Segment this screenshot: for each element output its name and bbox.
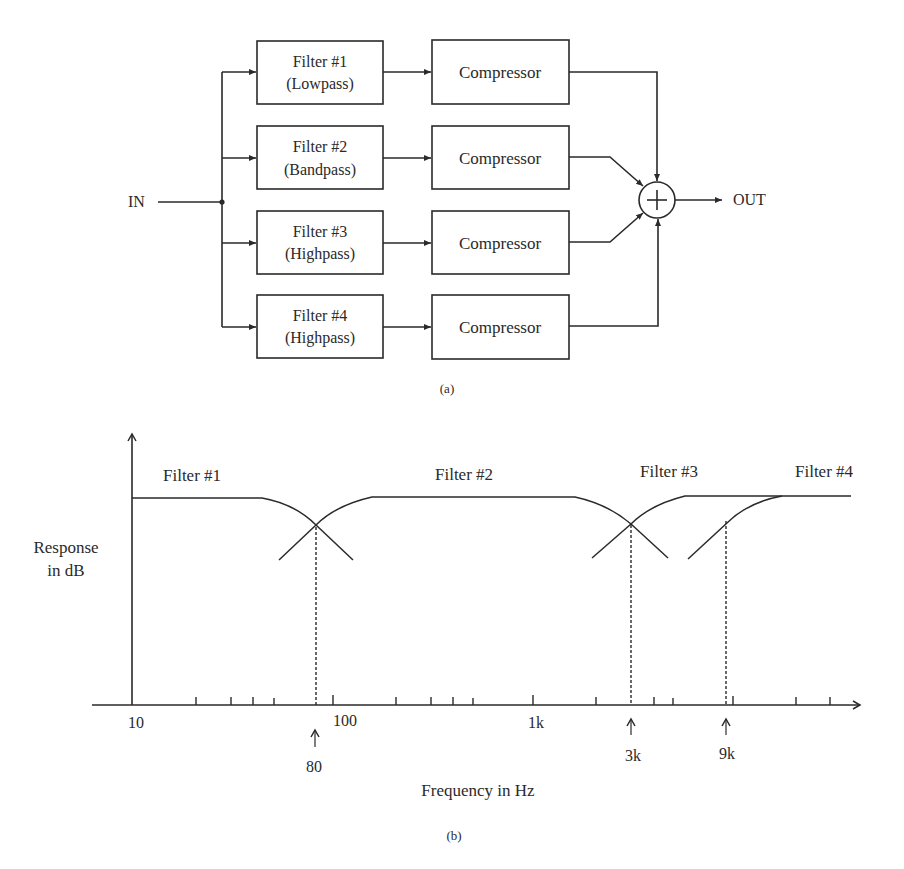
svg-text:80: 80 [306,758,322,775]
x-tick-100: 100 [333,712,357,729]
frequency-response-chart: 10 100 1k 80 3k 9k Filter #1 Filter #2 F… [33,434,860,843]
filter-1-curve-label: Filter #1 [163,466,221,485]
svg-text:3k: 3k [625,747,641,764]
x-axis-ticks [196,695,830,705]
filter-4-name: Filter #4 [293,307,348,324]
filter-4-block [257,295,383,358]
compressor-3-to-summer [569,213,643,242]
y-axis-label-line2: in dB [47,561,84,580]
caption-a: (a) [440,381,454,396]
filter-2-type: (Bandpass) [284,161,356,179]
crossover-marker-80: 80 [306,527,322,775]
filter-1-type: (Lowpass) [286,75,354,93]
filter-3-type: (Highpass) [285,245,355,263]
filter-3-name: Filter #3 [293,223,348,240]
x-tick-10: 10 [128,714,144,731]
filter-4-type: (Highpass) [285,329,355,347]
filter-1-block [257,41,383,104]
filter-2-name: Filter #2 [293,138,348,155]
block-diagram: IN Filter #1 (Lowpass) Compressor Filter… [128,40,766,396]
crossover-marker-9k: 9k [719,521,735,762]
filter-3-curve-label: Filter #3 [640,462,698,481]
compressor-2-label: Compressor [459,149,542,168]
y-axis-label-line1: Response [33,538,98,557]
filter-2-block [257,126,383,189]
compressor-4-label: Compressor [459,318,542,337]
filter-2-curve-label: Filter #2 [435,465,493,484]
filter-1-name: Filter #1 [293,53,348,70]
compressor-3-label: Compressor [459,234,542,253]
crossover-marker-3k: 3k [625,525,641,764]
compressor-1-label: Compressor [459,63,542,82]
output-label: OUT [733,191,766,208]
x-axis-label: Frequency in Hz [421,781,535,800]
summing-junction [639,182,675,218]
filter-3-block [257,211,383,274]
filter-2-curve [279,497,668,560]
compressor-1-to-summer [569,72,657,181]
row-3: Filter #3 (Highpass) Compressor [222,211,643,274]
x-tick-1k: 1k [528,714,544,731]
figure-canvas: IN Filter #1 (Lowpass) Compressor Filter… [0,0,904,869]
compressor-2-to-summer [569,157,643,186]
compressor-4-to-summer [569,219,658,326]
caption-b: (b) [446,828,461,843]
filter-4-curve [688,496,782,559]
svg-text:9k: 9k [719,745,735,762]
filter-4-curve-label: Filter #4 [795,462,854,481]
filter-1-curve [132,498,353,560]
row-2: Filter #2 (Bandpass) Compressor [222,126,643,189]
input-label: IN [128,193,145,210]
